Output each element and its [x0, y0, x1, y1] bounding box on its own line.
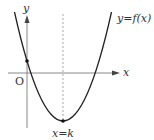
x-axis-label: x	[123, 66, 130, 79]
y-axis-label: y	[22, 2, 30, 15]
origin-label: O	[15, 75, 24, 88]
parabola-graph: y x O y=f(x) x=k	[0, 0, 154, 140]
y-intercept-point	[25, 59, 29, 63]
curve-label: y=f(x)	[116, 12, 151, 25]
x-axis-arrow-icon	[112, 71, 120, 76]
symmetry-line-label: x=k	[52, 127, 74, 140]
vertex-point	[61, 119, 65, 123]
y-axis-arrow-icon	[25, 15, 30, 23]
